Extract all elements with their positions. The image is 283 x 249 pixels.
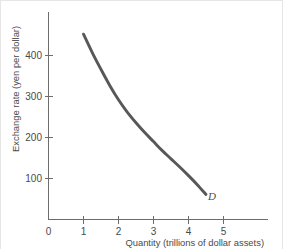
y-tick-label-300: 300 <box>25 91 42 102</box>
y-tick-label-100: 100 <box>25 173 42 184</box>
demand-curve-label: D <box>207 190 216 202</box>
x-tick-label-0: 0 <box>46 226 52 237</box>
x-tick-label-5: 5 <box>221 226 227 237</box>
x-tick-label-1: 1 <box>81 226 87 237</box>
y-tick-label-400: 400 <box>25 50 42 61</box>
x-tick-label-3: 3 <box>151 226 157 237</box>
demand-curve-line <box>84 34 207 194</box>
y-axis-title: Exchange rate (yen per dollar) <box>10 26 21 152</box>
y-tick-label-200: 200 <box>25 132 42 143</box>
chart-figure: 400 300 200 100 0 1 2 3 4 5 D Quantity (… <box>0 0 283 249</box>
x-tick-label-2: 2 <box>116 226 122 237</box>
demand-curve-chart: 400 300 200 100 0 1 2 3 4 5 D Quantity (… <box>0 0 283 249</box>
x-tick-label-4: 4 <box>186 226 192 237</box>
x-axis-title: Quantity (trillions of dollar assets) <box>125 237 264 248</box>
